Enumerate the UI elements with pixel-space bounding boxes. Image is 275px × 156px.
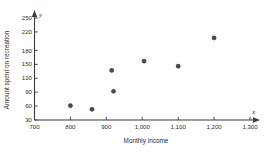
x-tick-label: 1,200 xyxy=(206,123,222,130)
y-tick-label: 120 xyxy=(22,74,33,81)
data-point xyxy=(68,104,72,108)
scatter-plot-figure: 306090120150180220250 7008009001,0001,10… xyxy=(0,0,275,156)
x-tick-label: 1,000 xyxy=(135,123,151,130)
y-tick-label: 220 xyxy=(22,28,33,35)
x-tick-label: 1,300 xyxy=(242,123,258,130)
data-point xyxy=(142,59,146,63)
chart-canvas: 306090120150180220250 7008009001,0001,10… xyxy=(0,0,275,156)
data-point xyxy=(90,107,94,111)
data-point xyxy=(110,68,114,72)
axes-group xyxy=(32,10,260,123)
data-points-group xyxy=(68,36,216,112)
data-point xyxy=(212,36,216,40)
y-tick-label: 250 xyxy=(22,14,33,21)
x-axis-ticks: 7008009001,0001,1001,2001,300 xyxy=(29,117,258,130)
y-tick-label: 150 xyxy=(22,60,33,67)
data-point xyxy=(176,64,180,68)
x-tick-label: 900 xyxy=(101,123,112,130)
y-axis-ticks: 306090120150180220250 xyxy=(22,14,38,123)
x-tick-label: 700 xyxy=(29,123,40,130)
y-axis-arrowhead xyxy=(32,10,37,17)
x-axis-variable-label: x xyxy=(251,108,256,116)
y-tick-label: 180 xyxy=(22,47,33,54)
y-tick-label: 90 xyxy=(25,88,32,95)
y-axis-title: Amount spent on recreation xyxy=(3,30,11,109)
x-axis-title: Monthly income xyxy=(124,137,169,145)
y-tick-label: 60 xyxy=(25,102,32,109)
x-axis-arrowhead xyxy=(253,117,260,122)
x-tick-label: 1,100 xyxy=(171,123,187,130)
y-axis-variable-label: y xyxy=(38,11,43,19)
data-point xyxy=(111,89,115,93)
x-tick-label: 800 xyxy=(65,123,76,130)
